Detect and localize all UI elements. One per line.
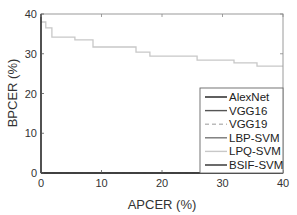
legend-label: LPQ-SVM: [229, 145, 281, 157]
x-axis-label: APCER (%): [128, 197, 197, 212]
series-lpq-svm: [41, 22, 283, 66]
x-tick-label: 0: [38, 177, 44, 189]
legend: AlexNetVGG16VGG19LBP-SVMLPQ-SVMBSIF-SVM: [200, 88, 283, 173]
y-tick-label: 30: [25, 48, 37, 60]
legend-label: VGG19: [229, 118, 267, 130]
legend-label: AlexNet: [229, 91, 270, 103]
y-tick-label: 20: [25, 88, 37, 100]
legend-label: LBP-SVM: [229, 132, 280, 144]
x-tick-label: 10: [95, 177, 107, 189]
y-tick-label: 40: [25, 8, 37, 20]
x-tick-label: 30: [216, 177, 228, 189]
det-curve-chart: 010203040010203040 APCER (%) BPCER (%) A…: [0, 0, 297, 215]
x-tick-label: 40: [277, 177, 289, 189]
y-axis-label: BPCER (%): [5, 59, 20, 128]
x-tick-label: 20: [156, 177, 168, 189]
y-tick-label: 10: [25, 127, 37, 139]
y-tick-label: 0: [31, 167, 37, 179]
legend-label: VGG16: [229, 105, 267, 117]
legend-label: BSIF-SVM: [229, 159, 283, 171]
